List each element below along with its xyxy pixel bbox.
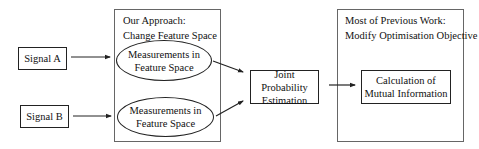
diagram-arrows [0,0,479,149]
arrow-measurements-1-to-joint [213,61,243,72]
arrow-measurements-2-to-joint [216,101,243,116]
